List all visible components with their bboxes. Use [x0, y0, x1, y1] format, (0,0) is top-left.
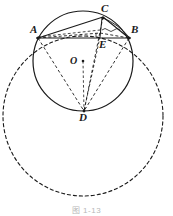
segment-BD	[84, 38, 129, 111]
segment-AC	[38, 17, 103, 38]
vertex-dot-C	[102, 17, 105, 20]
center-dot-O	[82, 60, 85, 63]
vertex-label-E: E	[99, 39, 106, 50]
vertex-label-D: D	[79, 112, 87, 123]
vertex-label-C: C	[101, 3, 108, 14]
vertex-label-A: A	[30, 24, 37, 35]
vertex-dot-A	[37, 37, 40, 40]
segment-OD	[83, 61, 84, 111]
figure-canvas	[0, 0, 173, 216]
segment-AD	[38, 38, 84, 111]
vertex-dot-B	[128, 37, 131, 40]
center-label-O: O	[70, 56, 77, 66]
geometry-figure: A B C D E O 图 1-13	[0, 0, 173, 216]
vertex-label-B: B	[131, 24, 138, 35]
segment-CE	[100, 18, 102, 37]
segment-ED	[84, 37, 100, 111]
figure-caption: 图 1-13	[0, 204, 173, 215]
